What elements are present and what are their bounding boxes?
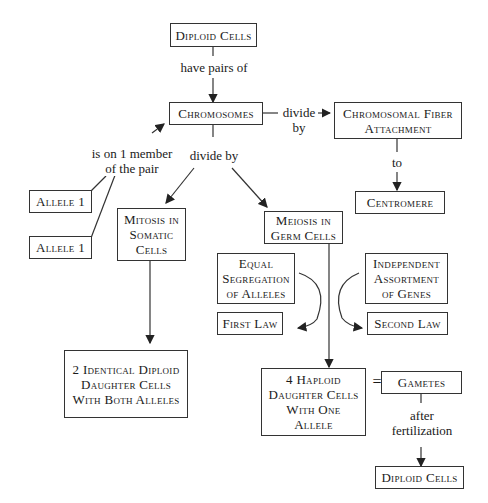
node-first-law: First Law — [217, 312, 283, 335]
node-label: Equal Segregation of Alleles — [222, 256, 290, 301]
edge-divide-by-fiber: divide by — [280, 105, 318, 135]
edge-divide-by: divide by — [188, 148, 240, 163]
node-label: Diploid Cells — [175, 28, 251, 43]
node-equal-segregation: Equal Segregation of Alleles — [217, 253, 295, 304]
node-label: Allele 1 — [36, 240, 85, 255]
node-second-law: Second Law — [367, 312, 448, 335]
node-label: 2 Identical Diploid Daughter Cells With … — [69, 362, 183, 407]
node-label: Centromere — [367, 195, 434, 210]
node-centromere: Centromere — [355, 191, 445, 214]
node-meiosis-germ-cells: Meiosis in Germ Cells — [264, 211, 343, 244]
edge-to: to — [387, 155, 407, 170]
node-label: First Law — [223, 316, 278, 331]
node-label: Independent Assortment of Genes — [370, 256, 443, 301]
node-allele-1-b: Allele 1 — [29, 236, 92, 259]
node-label: Diploid Cells — [381, 470, 457, 485]
node-diploid-cells-top: Diploid Cells — [170, 23, 257, 47]
node-allele-1-a: Allele 1 — [29, 190, 92, 213]
node-label: Chromosomal Fiber Attachment — [339, 106, 457, 136]
node-label: Meiosis in Germ Cells — [269, 213, 338, 243]
node-label: Mitosis in Somatic Cells — [122, 212, 181, 257]
node-independent-assortment: Independent Assortment of Genes — [365, 253, 448, 304]
node-chromosomal-fiber-attachment: Chromosomal Fiber Attachment — [334, 102, 462, 139]
edge-have-pairs-of: have pairs of — [170, 60, 258, 75]
node-chromosomes: Chromosomes — [169, 102, 263, 125]
node-mitosis-somatic-cells: Mitosis in Somatic Cells — [117, 208, 186, 261]
node-label: Chromosomes — [178, 106, 254, 121]
node-label: Second Law — [374, 316, 441, 331]
edge-is-on-1-member: is on 1 member of the pair — [90, 146, 174, 176]
node-4-haploid-daughter: 4 Haploid Daughter Cells With One Allele — [261, 368, 366, 436]
node-label: Gametes — [398, 375, 446, 390]
node-label: 4 Haploid Daughter Cells With One Allele — [266, 372, 361, 432]
node-diploid-cells-bottom: Diploid Cells — [375, 466, 464, 489]
node-label: Allele 1 — [36, 194, 85, 209]
node-2-identical-diploid: 2 Identical Diploid Daughter Cells With … — [64, 350, 188, 418]
node-gametes: Gametes — [381, 371, 462, 394]
edge-after-fertilization: after fertilization — [390, 408, 454, 438]
